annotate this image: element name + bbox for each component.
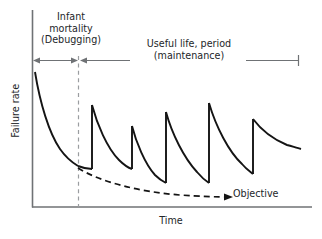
failure-rate-chart: Infant mortality (Debugging) Useful life…: [0, 0, 322, 239]
x-axis-label: Time: [131, 215, 211, 227]
curve-sawtooth-3-decay: [166, 112, 209, 183]
curve-sawtooth-4-decay: [209, 103, 253, 174]
objective-label: Objective: [233, 188, 295, 200]
curve-sawtooth-2-decay: [132, 126, 166, 183]
infant-mortality-label-line1: Infant: [34, 11, 108, 23]
failure-rate-curve: [35, 72, 301, 183]
curve-sawtooth-1-decay: [92, 105, 132, 169]
arrow-head-left-icon: [80, 58, 87, 64]
objective-arrow-head-icon: [224, 193, 233, 200]
curve-infant-mortality-decay: [35, 72, 78, 166]
infant-mortality-label-line2: mortality: [34, 23, 108, 35]
y-axis-label: Failure rate: [10, 71, 22, 151]
arrow-head-right-icon: [71, 58, 78, 64]
curve-sawtooth-5-tail: [253, 119, 301, 149]
infant-mortality-span-arrow: [33, 58, 78, 64]
useful-life-label: Useful life, period (maintenance): [130, 38, 248, 61]
useful-life-label-line2: (maintenance): [130, 50, 248, 62]
useful-life-label-line1: Useful life, period: [130, 38, 248, 50]
infant-mortality-label-line3: (Debugging): [34, 34, 108, 46]
infant-mortality-label: Infant mortality (Debugging): [34, 11, 108, 46]
arrow-head-left-icon: [33, 58, 40, 64]
